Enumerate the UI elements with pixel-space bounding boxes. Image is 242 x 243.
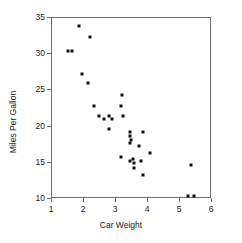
data-point xyxy=(129,135,132,138)
data-point xyxy=(141,174,144,177)
data-point xyxy=(133,161,136,164)
y-tick-label: 20 xyxy=(36,121,45,131)
x-tick-mark xyxy=(83,198,84,202)
data-point xyxy=(121,115,124,118)
data-point xyxy=(93,105,96,108)
data-point xyxy=(97,114,100,117)
y-tick-mark xyxy=(47,89,51,90)
data-points-layer xyxy=(52,18,210,197)
data-point xyxy=(139,160,142,163)
data-point xyxy=(119,105,122,108)
data-point xyxy=(128,160,131,163)
data-point xyxy=(129,131,132,134)
y-tick-label: 25 xyxy=(36,84,45,94)
y-tick-mark xyxy=(47,126,51,127)
y-tick-label: 35 xyxy=(36,12,45,22)
data-point xyxy=(70,50,73,53)
y-tick-label: 15 xyxy=(36,157,45,167)
data-point xyxy=(120,156,123,159)
data-point xyxy=(131,158,134,161)
y-tick-mark xyxy=(47,162,51,163)
x-tick-label: 6 xyxy=(209,204,214,214)
x-tick-label: 3 xyxy=(113,204,118,214)
data-point xyxy=(129,141,132,144)
y-axis-title: Miles Per Gallon xyxy=(8,62,18,182)
scatter-plot-figure: 101520253035 Miles Per Gallon 123456 Car… xyxy=(0,0,242,243)
data-point xyxy=(107,115,110,118)
x-tick-label: 1 xyxy=(49,204,54,214)
data-point xyxy=(102,118,105,121)
data-point xyxy=(89,35,92,38)
x-tick-label: 2 xyxy=(81,204,86,214)
data-point xyxy=(87,82,90,85)
x-tick-mark xyxy=(211,198,212,202)
data-point xyxy=(190,163,193,166)
y-tick-mark xyxy=(47,53,51,54)
data-point xyxy=(80,72,83,75)
x-tick-label: 4 xyxy=(145,204,150,214)
x-tick-mark xyxy=(115,198,116,202)
x-axis-title: Car Weight xyxy=(0,220,242,230)
data-point xyxy=(142,131,145,134)
x-tick-mark xyxy=(51,198,52,202)
data-point xyxy=(149,151,152,154)
data-point xyxy=(67,50,70,53)
x-tick-mark xyxy=(147,198,148,202)
y-tick-label: 30 xyxy=(36,48,45,58)
data-point xyxy=(133,166,136,169)
data-point xyxy=(111,118,114,121)
data-point xyxy=(138,145,141,148)
x-axis: 123456 Car Weight xyxy=(0,198,242,243)
y-tick-mark xyxy=(47,17,51,18)
data-point xyxy=(107,127,110,130)
x-tick-mark xyxy=(179,198,180,202)
x-tick-label: 5 xyxy=(177,204,182,214)
plot-area xyxy=(51,17,211,198)
data-point xyxy=(121,93,124,96)
data-point xyxy=(77,24,80,27)
